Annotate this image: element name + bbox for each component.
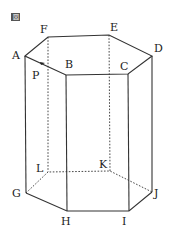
label-J: J bbox=[153, 187, 158, 200]
label-K: K bbox=[99, 158, 108, 171]
label-B: B bbox=[65, 58, 73, 71]
label-L: L bbox=[36, 162, 44, 175]
edge-CI bbox=[128, 74, 129, 211]
label-G: G bbox=[12, 187, 21, 200]
bottom-front-edges bbox=[26, 192, 152, 211]
edge-AG bbox=[25, 56, 26, 193]
label-F: F bbox=[40, 23, 48, 36]
label-E: E bbox=[110, 21, 118, 34]
label-A: A bbox=[11, 49, 21, 62]
label-H: H bbox=[61, 215, 71, 228]
label-D: D bbox=[154, 42, 163, 55]
edge-BH bbox=[66, 75, 67, 211]
label-I: I bbox=[122, 215, 126, 228]
top-face bbox=[25, 35, 152, 75]
label-C: C bbox=[120, 60, 128, 73]
bottom-back-edges-hidden bbox=[26, 171, 152, 193]
hexagonal-prism-diagram: A F E D C B P L K G J H I bbox=[0, 0, 174, 232]
edge-EK-hidden bbox=[109, 35, 110, 171]
label-P: P bbox=[32, 69, 40, 82]
